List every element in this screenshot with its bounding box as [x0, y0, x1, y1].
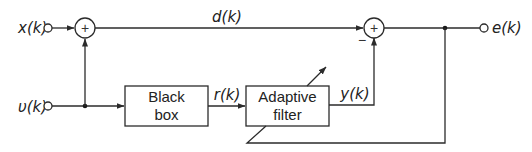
adaptation-arrow-icon: [307, 67, 326, 86]
adaptive-filter-label-line2: filter: [273, 106, 301, 123]
summer-1: +: [75, 18, 95, 38]
minus-sign: −: [358, 32, 366, 48]
signal-label-e: e(k): [492, 19, 522, 37]
input-terminal-x: [44, 24, 52, 32]
adaptive-filter-block: Adaptive filter: [246, 86, 329, 126]
black-box-label-line1: Black: [148, 88, 185, 105]
signal-label-v: υ(k): [18, 98, 47, 116]
summer-2: +: [364, 18, 384, 38]
output-terminal-e: [480, 24, 488, 32]
input-terminal-v: [44, 102, 52, 110]
signal-label-d: d(k): [212, 8, 242, 26]
plus-sign: +: [370, 20, 378, 36]
adaptive-filter-label-line1: Adaptive: [258, 88, 316, 105]
signal-label-r: r(k): [214, 86, 241, 104]
black-box-label-line2: box: [154, 106, 179, 123]
plus-sign: +: [81, 20, 89, 36]
block-diagram: x(k) + d(k) υ(k) Black box r(k) Adaptive…: [0, 0, 532, 152]
signal-label-y: y(k): [339, 85, 369, 103]
black-box-block: Black box: [125, 86, 208, 126]
signal-label-x: x(k): [17, 19, 47, 37]
